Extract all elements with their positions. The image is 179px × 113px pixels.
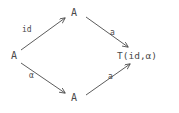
arrow-left-to-top [21,18,65,50]
edge-label-a-top: a [110,29,115,37]
node-a-top: A [71,8,77,18]
node-t-id-alpha: T(id,α) [117,51,157,61]
arrow-top-to-target [86,17,128,47]
node-a-left: A [11,51,17,61]
arrow-left-to-bottom [21,63,65,93]
edge-label-id: id [22,26,32,34]
node-a-bottom: A [71,93,77,103]
commutative-diagram: A A A T(id,α) id a α a [0,0,179,113]
edge-label-alpha: α [29,72,34,80]
edge-label-a-bottom: a [108,73,113,81]
